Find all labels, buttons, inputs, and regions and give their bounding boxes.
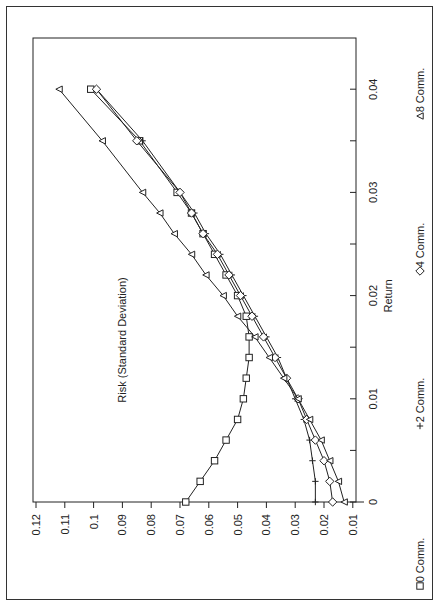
x-tick-label: 0 <box>367 499 379 505</box>
legend-item: 0 Comm. <box>414 538 426 590</box>
legend-label: 2 Comm. <box>414 378 426 423</box>
y-tick-label: 0.09 <box>116 514 128 535</box>
y-tick-label: 0.02 <box>318 514 330 535</box>
y-tick-label: 0.06 <box>203 514 215 535</box>
y-tick-label: 0.11 <box>59 514 71 535</box>
legend-item: 4 Comm. <box>414 223 426 276</box>
y-tick-label: 0.01 <box>347 514 359 535</box>
y-tick-label: 0.07 <box>174 514 186 535</box>
x-axis-title: Return <box>382 279 394 312</box>
series-4-comm- <box>92 85 337 506</box>
series-0-comm- <box>88 86 253 505</box>
legend-label: 4 Comm. <box>414 223 426 268</box>
y-tick-label: 0.03 <box>289 514 301 535</box>
y-tick-label: 0.04 <box>260 514 272 535</box>
chart: 0.010.020.030.040.050.060.070.080.090.10… <box>0 0 439 606</box>
y-tick-label: 0.12 <box>30 514 42 535</box>
legend-label: 0 Comm. <box>414 538 426 583</box>
legend-item: 2 Comm. <box>414 378 426 430</box>
x-tick-label: 0.04 <box>367 78 379 99</box>
y-tick-label: 0.08 <box>145 514 157 535</box>
x-tick-label: 0.02 <box>367 285 379 306</box>
legend-item: 8 Comm. <box>414 68 426 120</box>
series-8-comm- <box>56 86 348 505</box>
y-axis-title: Risk (Standard Deviation) <box>116 277 128 402</box>
y-tick-label: 0.05 <box>232 514 244 535</box>
x-tick-label: 0.03 <box>367 182 379 203</box>
legend-label: 8 Comm. <box>414 68 426 113</box>
x-tick-label: 0.01 <box>367 388 379 409</box>
y-tick-label: 0.1 <box>88 514 100 529</box>
